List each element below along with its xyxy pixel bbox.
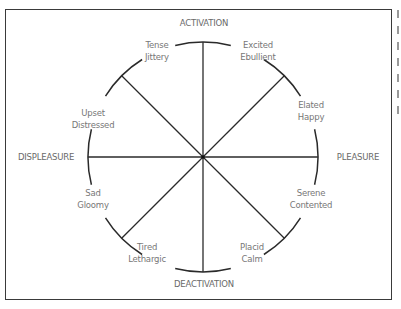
state-label-serene-contented: Serene Contented: [290, 187, 333, 211]
state-line1: Upset: [72, 107, 115, 119]
state-label-sad-gloomy: Sad Gloomy: [77, 187, 108, 211]
state-line1: Excited: [240, 39, 275, 51]
state-label-tired-lethargic: Tired Lethargic: [128, 241, 166, 265]
state-label-elated-happy: Elated Happy: [298, 99, 324, 123]
cropped-adjacent-text: [397, 10, 400, 130]
state-line2: Distressed: [72, 119, 115, 131]
state-line1: Tense: [145, 39, 169, 51]
axis-label-displeasure: DISPLEASURE: [18, 152, 74, 162]
spoke-line: [203, 157, 284, 238]
state-label-upset-distressed: Upset Distressed: [72, 107, 115, 131]
axis-label-activation: ACTIVATION: [180, 18, 228, 28]
state-line1: Elated: [298, 99, 324, 111]
state-line2: Contented: [290, 199, 333, 211]
state-line1: Tired: [128, 241, 166, 253]
state-line2: Calm: [240, 253, 264, 265]
state-line1: Placid: [240, 241, 264, 253]
state-line2: Jittery: [145, 51, 169, 63]
state-line2: Gloomy: [77, 199, 108, 211]
state-line2: Happy: [298, 111, 324, 123]
state-line2: Lethargic: [128, 253, 166, 265]
state-label-placid-calm: Placid Calm: [240, 241, 264, 265]
state-label-tense-jittery: Tense Jittery: [145, 39, 169, 63]
axis-label-deactivation: DEACTIVATION: [174, 279, 234, 289]
spoke-line: [203, 76, 284, 157]
state-line1: Serene: [290, 187, 333, 199]
state-label-excited-ebullient: Excited Ebullient: [240, 39, 275, 63]
spoke-line: [122, 76, 203, 157]
axis-label-pleasure: PLEASURE: [337, 152, 379, 162]
spoke-line: [122, 157, 203, 238]
state-line2: Ebullient: [240, 51, 275, 63]
state-line1: Sad: [77, 187, 108, 199]
